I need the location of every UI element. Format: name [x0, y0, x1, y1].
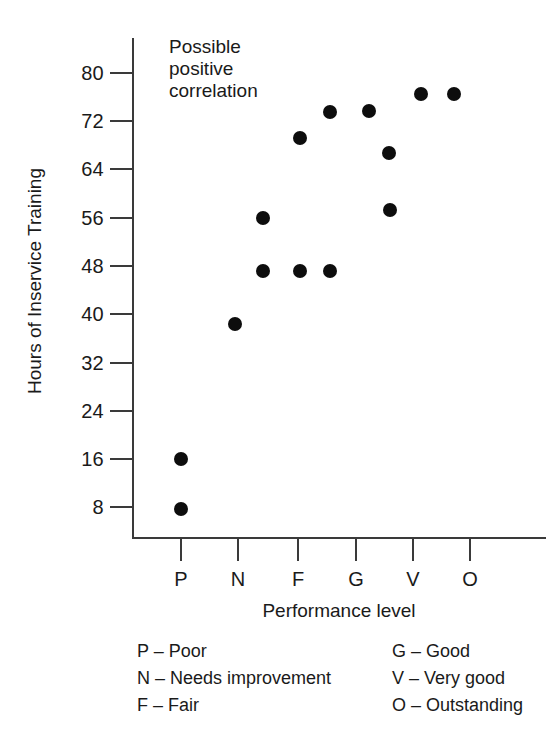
y-tick-mark — [110, 410, 133, 412]
key-entry: F – Fair — [137, 692, 392, 719]
data-point — [174, 502, 188, 516]
y-tick-label: 48 — [58, 256, 104, 276]
y-tick-label-wrap: 80 — [48, 63, 104, 83]
x-tick-mark — [412, 539, 414, 561]
y-tick-label-wrap: 16 — [48, 449, 104, 469]
x-axis-line — [132, 537, 546, 539]
annotation-line-1: Possible — [169, 36, 258, 58]
data-point — [293, 264, 307, 278]
y-tick-label-wrap: 64 — [48, 159, 104, 179]
y-axis-line — [132, 38, 134, 539]
scatter-plot-figure: Hours of Inservice Training 807264564840… — [0, 0, 551, 734]
y-tick-label-wrap: 8 — [48, 497, 104, 517]
y-tick-mark — [110, 72, 133, 74]
y-tick-label: 64 — [58, 159, 104, 179]
x-tick-mark — [297, 539, 299, 561]
data-point — [382, 146, 396, 160]
performance-level-key: P – PoorG – GoodN – Needs improvementV –… — [137, 638, 527, 719]
x-tick-label-n: N — [218, 568, 258, 590]
key-entry: V – Very good — [392, 665, 527, 692]
y-tick-label-wrap: 24 — [48, 401, 104, 421]
y-tick-label-wrap: 32 — [48, 353, 104, 373]
annotation-line-3: correlation — [169, 80, 258, 102]
data-point — [414, 87, 428, 101]
data-point — [256, 264, 270, 278]
y-tick-label: 8 — [58, 497, 104, 517]
x-tick-label-o: O — [450, 568, 490, 590]
correlation-annotation: Possible positive correlation — [169, 36, 258, 102]
y-tick-mark — [110, 362, 133, 364]
y-tick-mark — [110, 313, 133, 315]
x-axis-title: Performance level — [132, 600, 546, 622]
key-entry: P – Poor — [137, 638, 392, 665]
data-point — [174, 452, 188, 466]
x-tick-label-g: G — [336, 568, 376, 590]
data-point — [323, 105, 337, 119]
y-tick-mark — [110, 217, 133, 219]
y-tick-label: 24 — [58, 401, 104, 421]
x-tick-label-p: P — [161, 568, 201, 590]
y-tick-label: 80 — [58, 63, 104, 83]
y-tick-label: 40 — [58, 304, 104, 324]
x-tick-label-f: F — [278, 568, 318, 590]
key-entry: N – Needs improvement — [137, 665, 392, 692]
key-row: N – Needs improvementV – Very good — [137, 665, 527, 692]
data-point — [323, 264, 337, 278]
data-point — [383, 203, 397, 217]
y-tick-mark — [110, 265, 133, 267]
y-tick-label: 16 — [58, 449, 104, 469]
y-tick-mark — [110, 120, 133, 122]
y-tick-label-wrap: 72 — [48, 111, 104, 131]
x-tick-mark — [237, 539, 239, 561]
y-tick-label: 32 — [58, 353, 104, 373]
data-point — [293, 131, 307, 145]
y-tick-mark — [110, 458, 133, 460]
data-point — [228, 317, 242, 331]
data-point — [362, 104, 376, 118]
data-point — [256, 211, 270, 225]
x-tick-mark — [180, 539, 182, 561]
y-tick-label-wrap: 56 — [48, 208, 104, 228]
data-point — [447, 87, 461, 101]
x-tick-mark — [355, 539, 357, 561]
key-entry: O – Outstanding — [392, 692, 527, 719]
x-tick-mark — [469, 539, 471, 561]
y-tick-mark — [110, 168, 133, 170]
y-tick-label: 56 — [58, 208, 104, 228]
key-row: F – FairO – Outstanding — [137, 692, 527, 719]
key-row: P – PoorG – Good — [137, 638, 527, 665]
key-entry: G – Good — [392, 638, 527, 665]
y-tick-label: 72 — [58, 111, 104, 131]
y-axis-title: Hours of Inservice Training — [24, 146, 46, 416]
y-tick-label-wrap: 40 — [48, 304, 104, 324]
y-tick-label-wrap: 48 — [48, 256, 104, 276]
annotation-line-2: positive — [169, 58, 258, 80]
x-tick-label-v: V — [393, 568, 433, 590]
y-tick-mark — [110, 506, 133, 508]
